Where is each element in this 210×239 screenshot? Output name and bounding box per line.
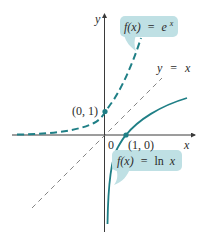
exp-callout-exponent: x (169, 19, 174, 28)
point-ln-label: (1, 0) (128, 138, 154, 152)
x-axis-label: x (183, 138, 190, 152)
exp-curve (17, 38, 141, 135)
identity-eq: = (170, 61, 177, 75)
exp-callout-tail (124, 35, 136, 51)
ln-callout-eq: = (141, 154, 148, 168)
ln-callout-fn: ln (154, 154, 163, 168)
point-exp-label: (0, 1) (72, 104, 98, 118)
identity-rhs: x (184, 61, 191, 75)
identity-lhs: y (156, 61, 163, 75)
exp-callout-fx: f(x) (124, 20, 141, 34)
exp-callout: f(x) = e x (120, 16, 178, 51)
y-axis-label: y (94, 12, 101, 26)
exp-callout-eq: = (148, 20, 155, 34)
identity-label: y = x (156, 61, 191, 75)
graph-canvas: f(x) = e x f(x) = ln x y x 0 (0, 1) (1, … (0, 0, 210, 239)
point-exp-intercept (102, 109, 107, 114)
exp-callout-base: e (161, 20, 167, 34)
ln-callout: f(x) = ln x (112, 150, 182, 185)
ln-callout-fx: f(x) (117, 154, 134, 168)
ln-callout-arg: x (169, 154, 176, 168)
point-ln-intercept (123, 132, 128, 137)
svg-text:f(x) = e x: f(x) = e x (124, 19, 174, 34)
origin-label: 0 (108, 138, 114, 152)
